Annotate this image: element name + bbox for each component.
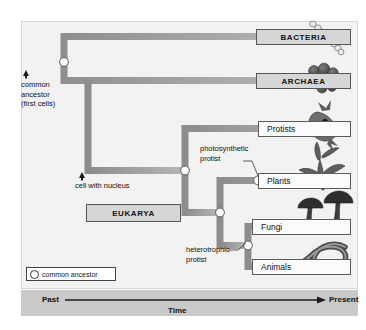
branch-to-plants-node	[185, 171, 220, 213]
axis-label-time: Time	[168, 306, 187, 315]
legend-label: common ancestor	[42, 271, 98, 278]
node-root-common-ancestor	[60, 58, 69, 67]
tree-of-life-diagram: BACTERIA ARCHAEA EUKARYA Protists Plants…	[0, 0, 366, 330]
node-plants-fungi-animals-ancestor	[216, 208, 225, 217]
domain-label-bacteria: BACTERIA	[280, 33, 326, 42]
taxon-box-animals[interactable]: Animals	[252, 259, 351, 275]
domain-box-eukarya[interactable]: EUKARYA	[86, 204, 181, 222]
callout-common-ancestor: common ancestor (first cells)	[21, 80, 91, 109]
taxon-box-plants[interactable]: Plants	[258, 173, 351, 189]
callout-cell-with-nucleus: cell with nucleus	[75, 181, 175, 191]
node-fungi-animals-ancestor	[244, 241, 253, 250]
arrow-right-icon	[317, 297, 326, 304]
arrow-cell-with-nucleus-stem	[81, 177, 83, 181]
axis-label-past: Past	[42, 295, 59, 304]
taxon-label-plants: Plants	[267, 176, 291, 186]
legend-common-ancestor: common ancestor	[26, 267, 116, 281]
taxon-box-protists[interactable]: Protists	[258, 121, 351, 137]
taxon-label-animals: Animals	[261, 262, 291, 272]
callout-photosynthetic-protist: photosynthetic protist	[200, 144, 260, 163]
callout-heterotrophic-protist: heterotrophic protist	[186, 245, 244, 264]
branch-eukarya-trunk	[88, 81, 185, 171]
leader-photosynthetic-protist	[243, 161, 258, 176]
domain-box-archaea[interactable]: ARCHAEA	[256, 73, 351, 89]
time-arrow-graphic	[21, 290, 358, 316]
domain-label-archaea: ARCHAEA	[281, 77, 325, 86]
taxon-label-protists: Protists	[267, 124, 295, 134]
taxon-label-fungi: Fungi	[261, 222, 282, 232]
branch-to-fungi-animals-node	[220, 213, 248, 246]
node-eukarya-ancestor	[181, 166, 190, 175]
domain-box-bacteria[interactable]: BACTERIA	[256, 29, 351, 45]
domain-label-eukarya: EUKARYA	[112, 209, 155, 218]
time-axis-bar	[21, 290, 358, 316]
open-circle-icon	[30, 270, 39, 279]
arrow-common-ancestor-stem	[25, 75, 27, 79]
taxon-box-fungi[interactable]: Fungi	[252, 219, 351, 235]
axis-label-present: Present	[329, 295, 358, 304]
